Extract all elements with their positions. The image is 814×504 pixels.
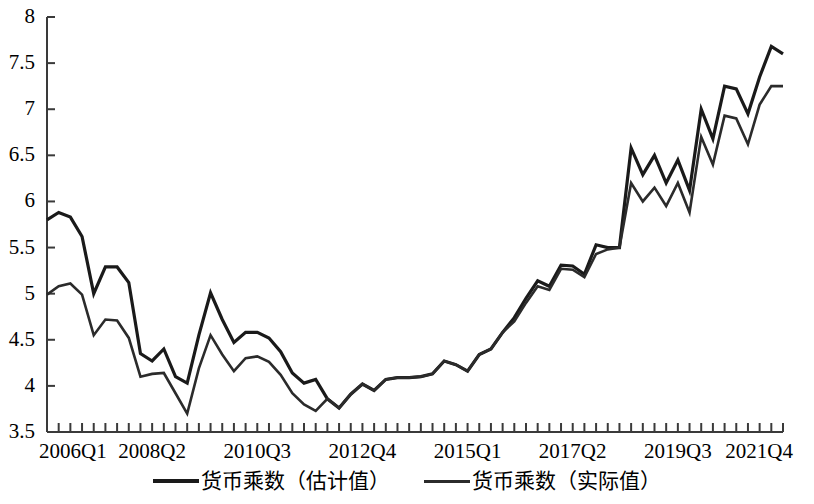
legend-entry-1: 货币乘数（估计值）	[153, 470, 390, 492]
legend-label: 货币乘数（估计值）	[201, 470, 390, 492]
y-axis-tick-label: 5.5	[0, 237, 35, 258]
legend-line-swatch-icon	[153, 479, 199, 483]
chart-series-lines	[47, 47, 783, 414]
money-multiplier-chart-figure: 87.576.565.554.543.5 2006Q12008Q22010Q32…	[0, 0, 814, 504]
chart-plot-area	[0, 0, 814, 504]
y-axis-tick-label: 7	[0, 98, 35, 119]
y-axis-tick-label: 5	[0, 283, 35, 304]
y-axis-tick-label: 8	[0, 6, 35, 27]
y-axis-tick-label: 7.5	[0, 52, 35, 73]
y-axis-tick-label: 3.5	[0, 421, 35, 442]
y-axis-tick-label: 6	[0, 190, 35, 211]
legend-label: 货币乘数（实际值）	[472, 470, 661, 492]
y-axis-tick-label: 4.5	[0, 329, 35, 350]
x-axis-tick-label: 2015Q1	[408, 440, 528, 462]
legend-line-swatch-icon	[424, 480, 470, 483]
legend-entry-2: 货币乘数（实际值）	[424, 470, 661, 492]
x-axis-tick-label: 2021Q4	[673, 440, 793, 462]
x-axis-tick-label: 2012Q4	[302, 440, 422, 462]
chart-axes	[47, 17, 783, 432]
x-axis-tick-label: 2008Q2	[92, 440, 212, 462]
chart-legend: 货币乘数（估计值）货币乘数（实际值）	[0, 470, 814, 492]
y-axis-tick-label: 4	[0, 375, 35, 396]
y-axis-tick-label: 6.5	[0, 144, 35, 165]
series-line-2	[47, 86, 783, 413]
x-axis-tick-label: 2010Q3	[197, 440, 317, 462]
x-axis-tick-label: 2017Q2	[513, 440, 633, 462]
series-line-1	[47, 47, 783, 409]
